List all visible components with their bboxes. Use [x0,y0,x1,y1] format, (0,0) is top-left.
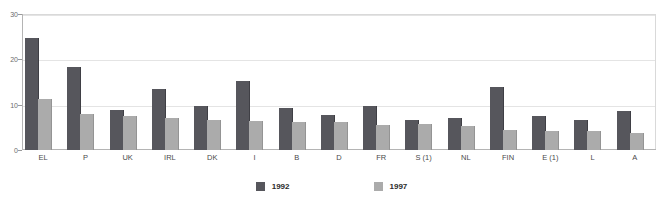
bar-1992-EL [25,38,39,150]
x-axis-label-B: B [276,152,318,164]
legend-swatch-1992-icon [256,182,265,191]
bar-1997-IRL [165,118,179,150]
bar-1992-IRL [152,89,166,150]
bars-layer [22,14,656,150]
bar-group [445,14,487,150]
bar-1992-L [574,120,588,150]
bar-1992-NL [448,118,462,150]
bar-1997-EL [38,99,52,150]
bar-group [487,14,529,150]
x-axis-label-P: P [64,152,106,164]
bar-group [149,14,191,150]
legend-label-1997: 1997 [390,183,408,191]
bar-chart: 0102030 ELPUKIRLDKIBDFRS (1)NLFINE (1)LA… [0,0,663,208]
bar-1992-DK [194,106,208,150]
bar-1997-S (1) [418,124,432,150]
bar-group [318,14,360,150]
bar-1992-D [321,115,335,150]
bar-1992-A [617,111,631,150]
x-axis-categories: ELPUKIRLDKIBDFRS (1)NLFINE (1)LA [22,152,656,166]
y-axis-tick-label: 0 [14,147,22,154]
x-axis-label-D: D [318,152,360,164]
bar-1997-B [292,122,306,150]
bar-1997-L [587,131,601,150]
x-axis-label-UK: UK [107,152,149,164]
bar-1997-E (1) [545,131,559,150]
bar-1997-P [80,114,94,150]
x-axis-label-DK: DK [191,152,233,164]
bar-1992-FIN [490,87,504,150]
bar-1992-FR [363,106,377,150]
bar-group [614,14,656,150]
y-axis-tick-label: 20 [10,56,22,63]
bar-1997-DK [207,120,221,150]
bar-group [191,14,233,150]
x-axis-label-EL: EL [22,152,64,164]
bar-1997-D [334,122,348,150]
bar-1992-S (1) [405,120,419,150]
x-axis-label-E1: E (1) [529,152,571,164]
bar-1997-I [249,121,263,150]
bar-1992-P [67,67,81,150]
legend: 1992 1997 [0,182,663,191]
x-axis-label-FIN: FIN [487,152,529,164]
legend-swatch-1997-icon [374,182,383,191]
bar-1997-UK [123,116,137,150]
bar-1992-I [236,81,250,150]
x-axis-label-IRL: IRL [149,152,191,164]
bar-1997-A [630,133,644,150]
bar-group [529,14,571,150]
y-axis-tick-label: 10 [10,101,22,108]
x-axis-label-FR: FR [360,152,402,164]
bar-group [107,14,149,150]
bar-1997-FR [376,125,390,150]
bar-group [276,14,318,150]
x-axis-label-S1: S (1) [402,152,444,164]
x-axis-label-A: A [614,152,656,164]
bar-1992-E (1) [532,116,546,150]
bar-group [233,14,275,150]
bar-1997-NL [461,126,475,150]
y-axis-tick-label: 30 [10,11,22,18]
legend-entry-1997[interactable]: 1997 [374,182,408,191]
bar-group [402,14,444,150]
bar-group [64,14,106,150]
x-axis-label-I: I [233,152,275,164]
x-axis-label-NL: NL [445,152,487,164]
bar-group [360,14,402,150]
bar-1997-FIN [503,130,517,150]
bar-1992-UK [110,110,124,150]
legend-label-1992: 1992 [272,183,290,191]
bar-group [571,14,613,150]
bar-group [22,14,64,150]
legend-entry-1992[interactable]: 1992 [256,182,290,191]
x-axis-label-L: L [571,152,613,164]
bar-1992-B [279,108,293,150]
